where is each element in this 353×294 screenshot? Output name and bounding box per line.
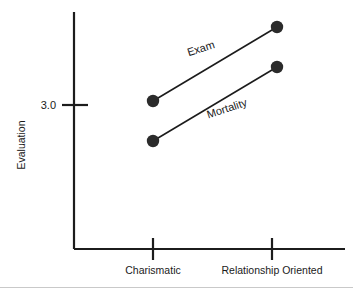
chart-canvas: 3.0 Evaluation Charismatic Relationship … <box>0 0 353 294</box>
line-chart: 3.0 Evaluation Charismatic Relationship … <box>0 0 353 294</box>
x-category-label-relationship-oriented: Relationship Oriented <box>222 264 323 276</box>
data-point-exam-charismatic <box>147 95 159 107</box>
series-line-exam <box>153 27 277 101</box>
series-label-exam: Exam <box>186 38 216 58</box>
data-point-mortality-relationship-oriented <box>271 61 283 73</box>
series-label-mortality: Mortality <box>205 96 249 120</box>
data-point-exam-relationship-oriented <box>271 21 283 33</box>
data-point-mortality-charismatic <box>147 135 159 147</box>
y-tick-label-3.0: 3.0 <box>41 99 56 111</box>
x-category-label-charismatic: Charismatic <box>125 264 180 276</box>
series-line-mortality <box>153 67 277 141</box>
y-axis-title: Evaluation <box>15 120 27 169</box>
footer-divider <box>0 287 353 288</box>
